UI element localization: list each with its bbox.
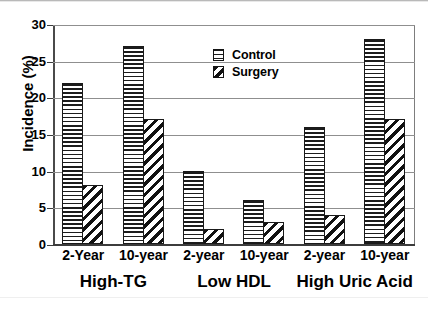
chart-legend: Control Surgery [213,47,318,81]
bar-control-5 [364,39,385,244]
gridline-15 [53,135,415,136]
y-tick-20 [47,98,53,99]
bar-surgery-3 [263,222,284,244]
bar-surgery-5 [384,119,405,244]
x-axis-tick-labels: 2-Year10-year2-year10-year2-year10-year [53,248,415,268]
legend-label-surgery: Surgery [232,65,279,79]
legend-item-control: Control [213,47,318,63]
y-tick-25 [47,62,53,63]
gridline-20 [53,98,415,99]
legend-item-surgery: Surgery [213,64,318,80]
plot-area: Control Surgery [53,25,415,245]
y-axis-tick-labels: 051015202530 [14,25,46,245]
x-axis-group-labels: High-TGLow HDLHigh Uric Acid [53,273,415,301]
bar-control-2 [183,171,204,244]
bar-control-4 [304,127,325,244]
chart-figure: Incidence (%) 051015202530 Control Surge… [0,0,428,311]
gridline-30 [53,25,415,26]
bar-surgery-0 [82,185,103,244]
y-tick-label-15: 15 [14,128,46,141]
group-label-2: High Uric Acid [275,273,428,292]
bar-control-1 [123,46,144,244]
bar-control-3 [243,200,264,244]
y-tick-label-25: 25 [14,55,46,68]
y-tick-5 [47,208,53,209]
horizontal-lines-swatch-icon [213,49,224,61]
y-tick-label-20: 20 [14,91,46,104]
y-tick-10 [47,172,53,173]
x-axis-line [53,244,415,246]
y-tick-15 [47,135,53,136]
y-tick-30 [47,25,53,26]
gridline-5 [53,208,415,209]
y-tick-0 [47,245,53,246]
y-tick-label-5: 5 [14,201,46,214]
x-tick-label-5: 10-year [340,248,428,263]
figure-top-rule [0,0,428,2]
gridline-10 [53,172,415,173]
bar-surgery-4 [324,215,345,244]
legend-label-control: Control [232,48,276,62]
bar-surgery-2 [203,229,224,244]
diagonal-hatch-swatch-icon [213,66,224,78]
bar-control-0 [62,83,83,244]
y-tick-label-30: 30 [14,18,46,31]
y-tick-label-10: 10 [14,165,46,178]
bar-surgery-1 [143,119,164,244]
